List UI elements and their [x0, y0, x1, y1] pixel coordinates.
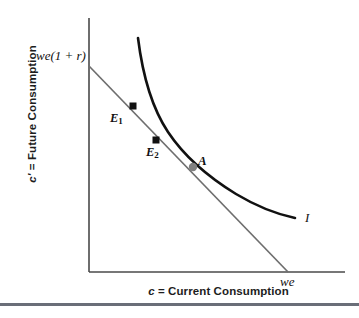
- point-marker-e2: [153, 137, 160, 144]
- endowment-point-2-label: E2: [146, 145, 159, 160]
- endowment-point-1-label: E1: [110, 111, 123, 126]
- point-marker-e1: [130, 103, 137, 110]
- y-axis-title-variable: c': [26, 173, 38, 182]
- x-axis-title: c = Current Consumption: [0, 285, 359, 297]
- budget-line: [89, 66, 288, 272]
- y-axis-title-text: = Future Consumption: [26, 45, 38, 173]
- point-marker-a: [189, 163, 197, 171]
- bottom-divider: [0, 303, 359, 306]
- e2-subscript: 2: [154, 150, 159, 160]
- tangency-point-label: A: [198, 153, 207, 169]
- horizontal-intercept-label: we: [280, 274, 294, 290]
- e1-subscript: 1: [118, 116, 123, 126]
- indifference-curve-label: I: [305, 210, 309, 226]
- indifference-curve: [138, 38, 295, 218]
- vertical-intercept-label: we(1 + r): [36, 48, 86, 64]
- x-axis-title-text: = Current Consumption: [155, 285, 289, 297]
